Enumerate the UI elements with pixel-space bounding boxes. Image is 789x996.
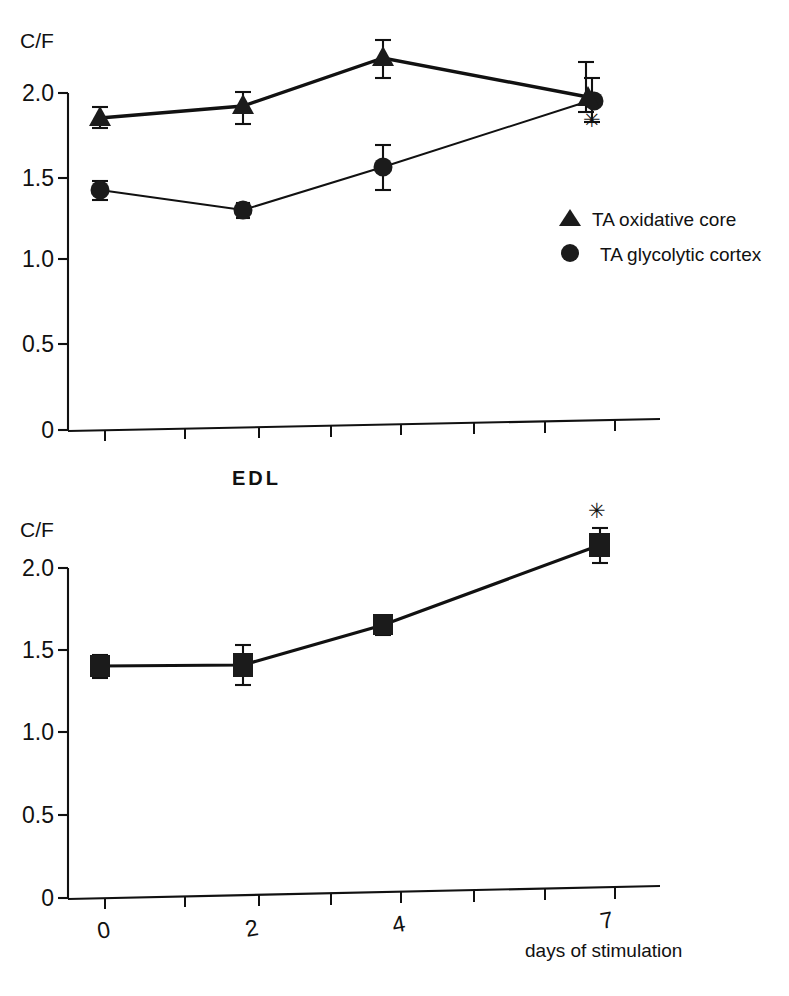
y-tick-label-bottom-4: 0 xyxy=(41,885,54,911)
errorbars-edl xyxy=(92,528,608,685)
x-axis-line-top xyxy=(68,419,660,431)
y-axis-label-bottom: C/F xyxy=(20,518,54,541)
line-ta-glycolytic-cortex xyxy=(100,100,592,210)
x-axis-line-bottom xyxy=(68,886,660,899)
x-tick-label-0: 0 xyxy=(95,916,112,944)
y-tick-label-bottom-1: 1.5 xyxy=(22,637,54,663)
panel-title-edl: EDL xyxy=(232,467,281,489)
x-tick-label-7: 7 xyxy=(598,906,615,934)
legend-item-ta-glycolytic-cortex[interactable]: TA glycolytic cortex xyxy=(561,244,762,265)
triangle-icon xyxy=(559,209,581,226)
significance-asterisk-bottom: ✳ xyxy=(588,499,606,522)
y-tick-label-bottom-0: 2.0 xyxy=(22,555,54,581)
x-tick-label-4: 4 xyxy=(390,910,407,938)
legend-top: TA oxidative core TA glycolytic cortex xyxy=(559,209,762,265)
datapoint-square-day4 xyxy=(373,614,393,635)
y-tick-label-top-0: 2.0 xyxy=(22,80,54,106)
x-ticks-top xyxy=(105,420,615,441)
datapoint-circle-day0 xyxy=(91,181,110,200)
circle-icon xyxy=(561,244,579,262)
x-axis-title: days of stimulation xyxy=(525,940,682,961)
y-ticks-bottom xyxy=(58,568,68,898)
y-tick-label-top-3: 0.5 xyxy=(22,331,54,357)
x-ticks-bottom xyxy=(105,888,615,909)
datapoint-circle-day2 xyxy=(234,201,253,220)
datapoint-square-day7 xyxy=(589,533,610,557)
x-tick-label-2: 2 xyxy=(243,914,260,942)
datapoint-square-day2 xyxy=(233,653,253,677)
legend-label-ta-glycolytic-cortex: TA glycolytic cortex xyxy=(600,244,762,265)
y-tick-label-top-2: 1.0 xyxy=(22,246,54,272)
y-tick-label-bottom-3: 0.5 xyxy=(22,802,54,828)
line-ta-oxidative-core xyxy=(100,58,588,118)
figure-canvas: C/F 2.0 1.5 1.0 0.5 0 xyxy=(0,0,789,996)
line-edl xyxy=(100,545,600,666)
series-ta-glycolytic-cortex-top xyxy=(91,78,604,220)
panel-bottom: C/F 2.0 1.5 1.0 0.5 0 xyxy=(20,499,682,961)
y-axis-label-top: C/F xyxy=(20,29,54,52)
figure-svg: C/F 2.0 1.5 1.0 0.5 0 xyxy=(0,0,789,996)
errorbars-ta-glycolytic-cortex xyxy=(92,78,600,218)
datapoint-circle-day4 xyxy=(374,158,393,177)
legend-label-ta-oxidative-core: TA oxidative core xyxy=(592,209,736,230)
y-tick-label-bottom-2: 1.0 xyxy=(22,719,54,745)
significance-asterisk-top: ✳ xyxy=(583,108,601,131)
y-tick-label-top-1: 1.5 xyxy=(22,165,54,191)
series-ta-oxidative-core-top xyxy=(89,40,599,128)
panel-top: C/F 2.0 1.5 1.0 0.5 0 xyxy=(20,29,762,443)
y-ticks-top xyxy=(58,93,68,430)
series-edl xyxy=(90,528,610,685)
legend-item-ta-oxidative-core[interactable]: TA oxidative core xyxy=(559,209,736,230)
datapoint-square-day0 xyxy=(90,655,110,677)
datapoint-triangle-day4 xyxy=(372,46,394,66)
y-tick-label-top-4: 0 xyxy=(41,417,54,443)
